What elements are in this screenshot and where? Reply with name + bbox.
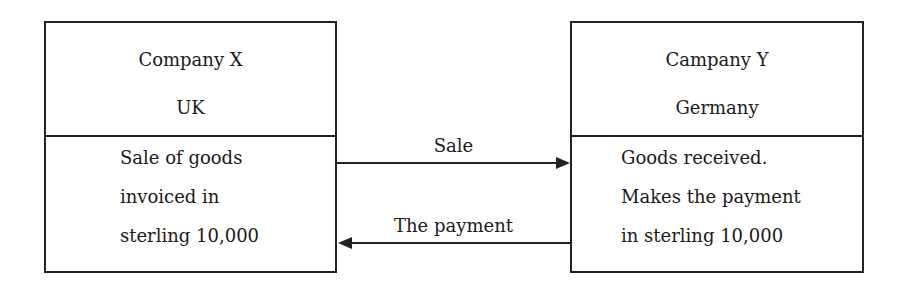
payment-label: The payment	[337, 215, 570, 236]
payment-arrow-icon	[338, 237, 570, 249]
sale-arrow-icon	[337, 157, 570, 169]
sale-label: Sale	[337, 135, 570, 156]
